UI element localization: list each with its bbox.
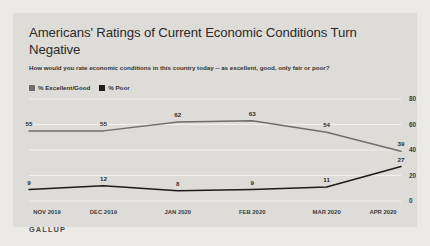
x-axis-tick-label: APR 2020 bbox=[369, 209, 396, 215]
chart-subtitle: How would you rate economic conditions i… bbox=[29, 63, 399, 72]
page-title: Americans' Ratings of Current Economic C… bbox=[29, 25, 379, 58]
y-axis-tick-label: 80 bbox=[409, 95, 429, 102]
plot-area bbox=[29, 99, 401, 201]
legend-swatch-icon bbox=[29, 85, 35, 91]
data-point-label: 9 bbox=[250, 179, 253, 186]
data-point-label: 11 bbox=[323, 176, 330, 183]
brand-logo: GALLUP bbox=[29, 225, 66, 234]
legend-item-poor[interactable]: % Poor bbox=[99, 84, 129, 91]
legend-label: % Excellent/Good bbox=[38, 84, 90, 91]
data-point-label: 55 bbox=[26, 120, 33, 127]
series-line bbox=[29, 167, 401, 191]
data-point-label: 12 bbox=[100, 175, 107, 182]
y-axis-tick-label: 20 bbox=[409, 172, 429, 179]
data-point-label: 54 bbox=[323, 121, 330, 128]
data-point-label: 63 bbox=[249, 110, 256, 117]
data-point-label: 55 bbox=[100, 120, 107, 127]
series-line bbox=[29, 121, 401, 152]
y-axis-tick-label: 40 bbox=[409, 146, 429, 153]
data-point-label: 8 bbox=[176, 180, 179, 187]
legend-item-excellent-good[interactable]: % Excellent/Good bbox=[29, 84, 90, 91]
data-point-label: 62 bbox=[174, 111, 181, 118]
x-axis-tick-label: NOV 2019 bbox=[33, 209, 61, 215]
chart-svg bbox=[29, 99, 401, 201]
chart-card: Americans' Ratings of Current Economic C… bbox=[13, 13, 417, 227]
chart-legend: % Excellent/Good % Poor bbox=[29, 84, 130, 91]
y-axis-tick-label: 60 bbox=[409, 121, 429, 128]
x-axis-tick-label: DEC 2019 bbox=[90, 209, 117, 215]
legend-label: % Poor bbox=[108, 84, 129, 91]
y-axis-tick-label: 0 bbox=[409, 197, 429, 204]
data-point-label: 39 bbox=[398, 140, 405, 147]
x-axis-tick-label: JAN 2020 bbox=[165, 209, 192, 215]
legend-swatch-icon bbox=[99, 85, 105, 91]
data-point-label: 9 bbox=[27, 179, 30, 186]
x-axis-tick-label: MAR 2020 bbox=[313, 209, 341, 215]
x-axis-tick-label: FEB 2020 bbox=[239, 209, 266, 215]
data-point-label: 27 bbox=[398, 156, 405, 163]
